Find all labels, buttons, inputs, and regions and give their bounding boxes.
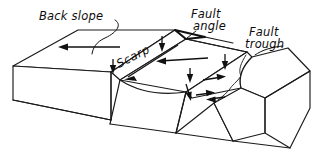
label-fault-angle-line2: angle (193, 19, 226, 33)
block-diagram-svg: Back slope Scarp Fault angle Fault troug… (0, 0, 320, 159)
label-fault-trough-line2: trough (245, 37, 284, 51)
right-block-front-face (214, 88, 265, 141)
block-diagram-figure: Back slope Scarp Fault angle Fault troug… (0, 0, 320, 159)
left-block-left-face (13, 66, 111, 120)
right-block-bottom-edge (233, 141, 290, 148)
middle-block-front-base (110, 124, 176, 133)
fault-angle-crest-edge (205, 37, 233, 43)
label-back-slope: Back slope (39, 9, 103, 23)
graben-outer-wall (176, 133, 233, 141)
